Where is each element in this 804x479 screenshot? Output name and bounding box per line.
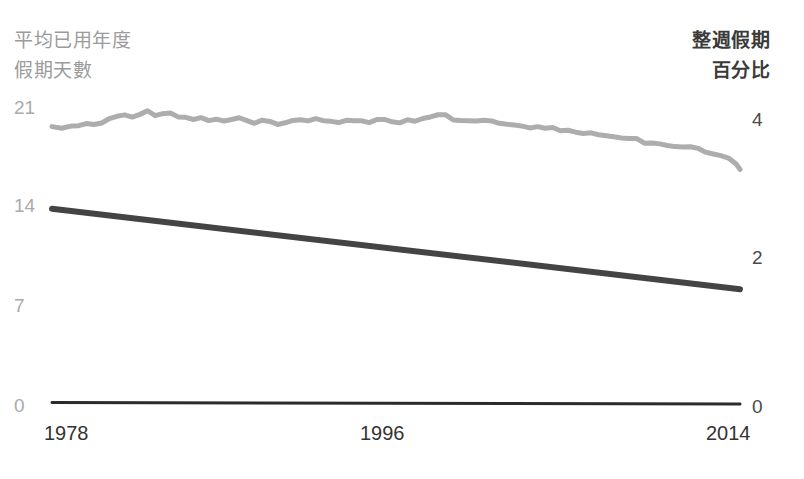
right-axis-title-line-1: 整週假期 bbox=[692, 26, 770, 56]
x-axis-baseline bbox=[52, 403, 740, 404]
left-axis-tick-7: 7 bbox=[14, 296, 25, 315]
plot-area bbox=[0, 0, 804, 479]
series-line-full-week-percent bbox=[52, 209, 740, 289]
right-axis-tick-0: 0 bbox=[752, 397, 763, 416]
left-axis-title-line-1: 平均已用年度 bbox=[14, 26, 131, 56]
series-line-vacation-days bbox=[52, 111, 740, 170]
x-axis-tick-1996: 1996 bbox=[360, 424, 405, 443]
x-axis-tick-2014: 2014 bbox=[706, 424, 751, 443]
left-axis-tick-0: 0 bbox=[14, 396, 25, 415]
left-axis-tick-21: 21 bbox=[14, 98, 35, 117]
x-axis-tick-1978: 1978 bbox=[44, 424, 89, 443]
left-axis-tick-14: 14 bbox=[14, 196, 35, 215]
chart-root: 平均已用年度 假期天數 整週假期 百分比 21 14 7 0 4 2 0 197… bbox=[0, 0, 804, 479]
left-axis-title-line-2: 假期天數 bbox=[14, 56, 92, 86]
right-axis-tick-4: 4 bbox=[752, 110, 763, 129]
right-axis-title-line-2: 百分比 bbox=[712, 56, 771, 86]
right-axis-tick-2: 2 bbox=[752, 248, 763, 267]
